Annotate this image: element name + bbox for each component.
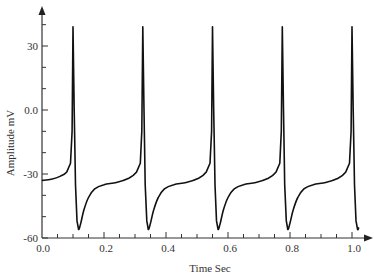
x-axis: 0.00.20.40.60.81.0 <box>36 232 373 254</box>
waveform-line <box>42 27 359 230</box>
y-tick-label: 0.0 <box>24 104 38 116</box>
y-tick-label: -30 <box>23 168 38 180</box>
x-tick-label: 0.2 <box>99 242 113 254</box>
chart: -60-300.030 0.00.20.40.60.81.0 Time Sec … <box>0 0 374 277</box>
x-tick-label: 0.0 <box>36 242 50 254</box>
x-axis-title: Time Sec <box>189 262 231 274</box>
y-axis: -60-300.030 <box>23 6 48 244</box>
x-tick-label: 0.6 <box>223 242 237 254</box>
y-axis-arrow-icon <box>39 6 46 15</box>
x-tick-label: 0.4 <box>161 242 175 254</box>
x-axis-arrow-icon <box>364 235 373 242</box>
x-tick-label: 1.0 <box>347 242 361 254</box>
x-tick-label: 0.8 <box>285 242 299 254</box>
y-tick-label: 30 <box>27 40 39 52</box>
y-axis-title: Amplitude mV <box>4 110 16 176</box>
